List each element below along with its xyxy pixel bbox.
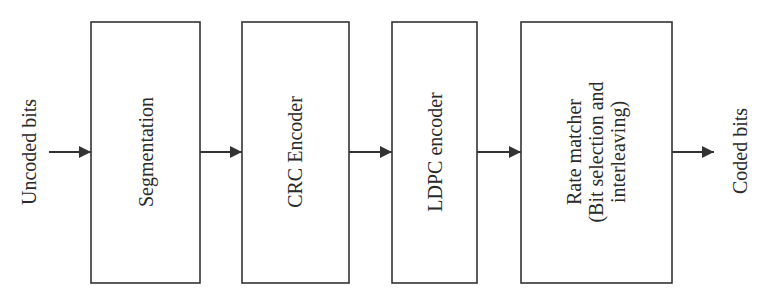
input-label: Uncoded bits (18, 99, 40, 205)
block-ldpc-encoder: LDPC encoder (392, 22, 477, 283)
block-rate-matcher-label-line-1: Rate matcher (563, 99, 585, 205)
block-rate-matcher-label-line-2: (Bit selection and (585, 81, 608, 222)
block-crc-encoder-label: CRC Encoder (284, 96, 306, 208)
block-rate-matcher: Rate matcher (Bit selection and interlea… (521, 22, 672, 283)
output-label: Coded bits (729, 108, 751, 194)
block-crc-encoder: CRC Encoder (242, 22, 349, 283)
block-rate-matcher-label-line-3: interleaving) (607, 101, 630, 203)
channel-coding-block-diagram: Uncoded bits Segmentation CRC Encoder LD… (0, 0, 769, 299)
block-segmentation: Segmentation (91, 22, 200, 283)
block-ldpc-encoder-label: LDPC encoder (424, 92, 446, 212)
block-segmentation-label: Segmentation (135, 97, 158, 207)
